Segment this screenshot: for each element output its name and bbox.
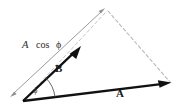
- projection-label-a: A: [21, 39, 29, 50]
- projection-label-cos: cos: [36, 39, 49, 50]
- vector-a-label: A: [116, 87, 124, 99]
- projection-label-phi: ϕ: [56, 39, 61, 50]
- figure-background: [0, 0, 181, 111]
- figure-canvas: A cos ϕ B A ϕ: [0, 0, 181, 111]
- vector-b-label: B: [55, 62, 63, 74]
- angle-label-phi: ϕ: [33, 85, 38, 95]
- vector-projection-figure: A cos ϕ B A ϕ: [0, 0, 181, 111]
